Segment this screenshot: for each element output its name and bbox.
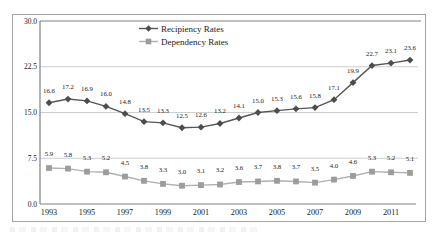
x-axis-tick-label: 2001 xyxy=(193,208,209,217)
dependency-marker xyxy=(65,166,71,172)
recipiency-value-label: 13.2 xyxy=(214,107,226,114)
recipiency-marker xyxy=(46,99,53,106)
recipiency-value-label: 22.7 xyxy=(366,50,378,57)
dependency-marker xyxy=(388,169,394,175)
dependency-marker xyxy=(407,170,413,176)
dependency-value-label: 3.8 xyxy=(273,163,282,170)
dependency-value-label: 4.6 xyxy=(349,158,358,165)
recipiency-marker xyxy=(84,98,91,105)
dependency-value-label: 4.5 xyxy=(121,159,130,166)
y-axis-tick-label: 22.5 xyxy=(24,62,37,71)
recipiency-marker xyxy=(388,60,395,67)
dependency-value-label: 3.5 xyxy=(311,165,320,172)
recipiency-marker xyxy=(65,96,72,103)
dependency-marker xyxy=(236,179,242,185)
recipiency-marker xyxy=(255,109,262,116)
dependency-marker xyxy=(122,174,128,180)
recipiency-marker xyxy=(160,119,167,126)
recipiency-marker xyxy=(312,104,319,111)
x-axis-tick-label: 1997 xyxy=(117,208,133,217)
legend-entry-label: Dependency Rates xyxy=(161,37,229,47)
recipiency-value-label: 14.8 xyxy=(119,98,131,105)
dependency-value-label: 3.3 xyxy=(159,166,168,173)
dependency-marker xyxy=(141,178,147,184)
x-axis-tick-label: 2007 xyxy=(307,208,323,217)
dependency-value-label: 3.7 xyxy=(254,163,263,170)
dependency-marker xyxy=(198,182,204,188)
dependency-value-label: 5.9 xyxy=(45,150,54,157)
x-axis-tick-label: 1999 xyxy=(155,208,171,217)
dependency-value-label: 5.2 xyxy=(102,154,111,161)
dependency-marker xyxy=(312,180,318,186)
dependency-value-label: 3.7 xyxy=(292,163,301,170)
legend-square-marker-icon xyxy=(146,39,152,45)
x-axis-tick-label: 2011 xyxy=(383,208,399,217)
legend-entry-label: Recipiency Rates xyxy=(161,24,224,34)
dependency-marker xyxy=(46,165,52,171)
dependency-marker xyxy=(217,182,223,188)
recipiency-value-label: 15.8 xyxy=(309,92,321,99)
recipiency-marker xyxy=(293,105,300,112)
y-axis-tick-label: 7.5 xyxy=(28,154,38,163)
x-axis-tick-label: 1993 xyxy=(41,208,57,217)
dependency-marker xyxy=(103,169,109,175)
recipiency-value-label: 16.0 xyxy=(100,90,112,97)
recipiency-value-label: 13.5 xyxy=(138,106,150,113)
recipiency-value-label: 23.6 xyxy=(404,44,416,51)
dependency-value-label: 5.3 xyxy=(368,154,377,161)
recipiency-marker xyxy=(236,115,243,122)
recipiency-value-label: 12.5 xyxy=(176,112,188,119)
recipiency-marker xyxy=(274,107,281,114)
recipiency-value-label: 12.6 xyxy=(195,111,207,118)
x-axis-tick-label: 1995 xyxy=(79,208,95,217)
chart-figure: 0.07.515.022.530.01993199519971999200120… xyxy=(12,14,426,222)
recipiency-value-label: 16.6 xyxy=(43,87,55,94)
recipiency-value-label: 14.1 xyxy=(233,102,245,109)
dependency-value-label: 3.6 xyxy=(235,164,244,171)
recipiency-value-label: 15.3 xyxy=(271,95,283,102)
recipiency-value-label: 19.9 xyxy=(347,67,359,74)
y-axis-tick-label: 15.0 xyxy=(24,108,37,117)
dependency-marker xyxy=(84,169,90,175)
x-axis-tick-label: 2003 xyxy=(231,208,247,217)
dependency-marker xyxy=(293,179,299,185)
dependency-marker xyxy=(369,169,375,175)
dependency-value-label: 4.0 xyxy=(330,162,339,169)
dependency-value-label: 3.8 xyxy=(140,163,149,170)
recipiency-value-label: 17.1 xyxy=(328,84,340,91)
dependency-value-label: 3.0 xyxy=(178,168,187,175)
dependency-value-label: 5.2 xyxy=(387,154,396,161)
recipiency-value-label: 15.0 xyxy=(252,97,264,104)
dependency-marker xyxy=(255,179,261,185)
recipiency-value-label: 17.2 xyxy=(62,83,74,90)
recipiency-value-label: 13.3 xyxy=(157,107,169,114)
dependency-value-label: 3.1 xyxy=(197,167,206,174)
dependency-value-label: 5.3 xyxy=(83,154,92,161)
cropped-caption-remnant xyxy=(10,227,260,232)
y-axis-tick-label: 30.0 xyxy=(24,17,37,26)
x-axis-tick-label: 2009 xyxy=(345,208,361,217)
recipiency-marker xyxy=(103,103,110,110)
y-axis-tick-label: 0.0 xyxy=(28,200,38,209)
recipiency-value-label: 16.9 xyxy=(81,85,93,92)
line-chart: 0.07.515.022.530.01993199519971999200120… xyxy=(13,15,425,221)
dependency-value-label: 3.2 xyxy=(216,166,225,173)
dependency-marker xyxy=(350,173,356,179)
dependency-marker xyxy=(331,177,337,183)
recipiency-marker xyxy=(198,124,205,131)
recipiency-marker xyxy=(122,110,129,117)
recipiency-marker xyxy=(407,57,414,64)
recipiency-marker xyxy=(179,124,186,131)
dependency-marker xyxy=(274,178,280,184)
recipiency-marker xyxy=(217,120,224,127)
x-axis-tick-label: 2005 xyxy=(269,208,285,217)
recipiency-value-label: 15.6 xyxy=(290,93,302,100)
legend-diamond-marker-icon xyxy=(145,25,151,31)
recipiency-value-label: 23.1 xyxy=(385,47,397,54)
recipiency-marker xyxy=(141,118,148,125)
dependency-value-label: 5.8 xyxy=(64,151,73,158)
dependency-marker xyxy=(179,183,185,189)
dependency-value-label: 5.1 xyxy=(406,155,415,162)
dependency-marker xyxy=(160,181,166,187)
